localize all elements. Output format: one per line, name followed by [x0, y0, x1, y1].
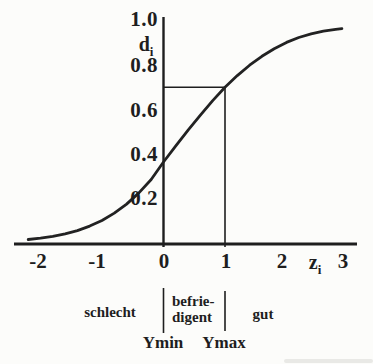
y-tick-label: 0.4: [100, 144, 158, 165]
x-axis-label: zi: [293, 252, 337, 272]
zone-label-befriedigent: befrie-digent: [172, 293, 232, 325]
zone-label-schlecht: schlecht: [70, 304, 150, 320]
zone-label-befriedigent-line1: befrie-: [172, 293, 214, 309]
x-axis-label-main: z: [309, 251, 318, 273]
y-tick-label: 1.0: [100, 9, 158, 30]
y-axis-label: di: [126, 34, 166, 54]
x-tick-label: -1: [75, 251, 119, 272]
x-tick-label: -2: [16, 251, 60, 272]
x-tick-label: 1: [204, 251, 248, 272]
scan-artifact: [284, 359, 373, 363]
desirability-curve: [28, 29, 342, 240]
ymax-label: Ymax: [198, 334, 250, 351]
x-axis-label-sub: i: [318, 262, 322, 277]
y-tick-label: 0.6: [100, 100, 158, 121]
zone-label-gut: gut: [240, 306, 286, 322]
y-axis-label-sub: i: [150, 44, 154, 59]
x-tick-label: 0: [142, 251, 186, 272]
zone-label-befriedigent-line2: digent: [172, 309, 212, 325]
ymin-label: Ymin: [137, 334, 189, 351]
y-axis-label-main: d: [139, 33, 150, 55]
figure-canvas: 1.0 0.8 0.6 0.4 0.2 di -2 -1 0 1 2 3 zi …: [0, 0, 373, 364]
y-tick-label: 0.2: [100, 188, 158, 209]
